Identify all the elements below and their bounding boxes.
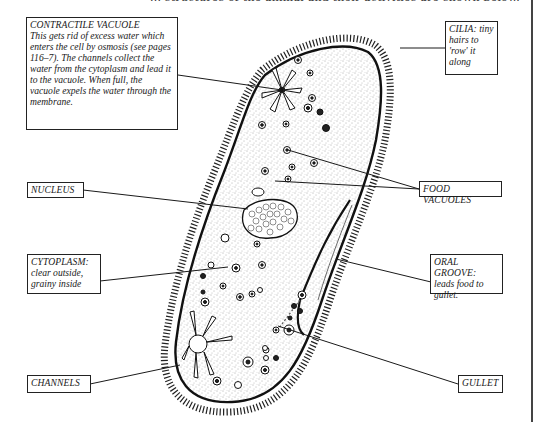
label-description: This gets rid of excess water which ente… [30, 30, 174, 107]
label-nucleus: NUCLEUS [27, 182, 84, 198]
label-title: CYTOPLASM: [31, 256, 89, 267]
label-title: ORAL GROOVE: [434, 256, 476, 278]
label-title: GULLET [462, 377, 498, 388]
label-cilia: CILIA: tiny hairs to 'row' it along [445, 21, 498, 75]
label-title: CONTRACTILE VACUOLE [30, 19, 140, 30]
label-description: clear outside, grainy inside [31, 267, 97, 289]
label-description: leads food to gullet. [434, 278, 499, 300]
label-oral-groove: ORAL GROOVE: leads food to gullet. [430, 254, 503, 294]
label-channels: CHANNELS [27, 375, 91, 393]
label-food-vacuoles: FOOD VACUOLES [419, 181, 502, 197]
label-title: CHANNELS [31, 377, 80, 388]
label-title: CILIA: [449, 23, 477, 34]
label-title: NUCLEUS [31, 184, 74, 195]
label-gullet: GULLET [458, 375, 503, 393]
label-contractile-vacuole: CONTRACTILE VACUOLE This gets rid of exc… [26, 17, 178, 130]
label-title: FOOD VACUOLES [423, 183, 471, 205]
label-cytoplasm: CYTOPLASM: clear outside, grainy inside [27, 254, 101, 294]
